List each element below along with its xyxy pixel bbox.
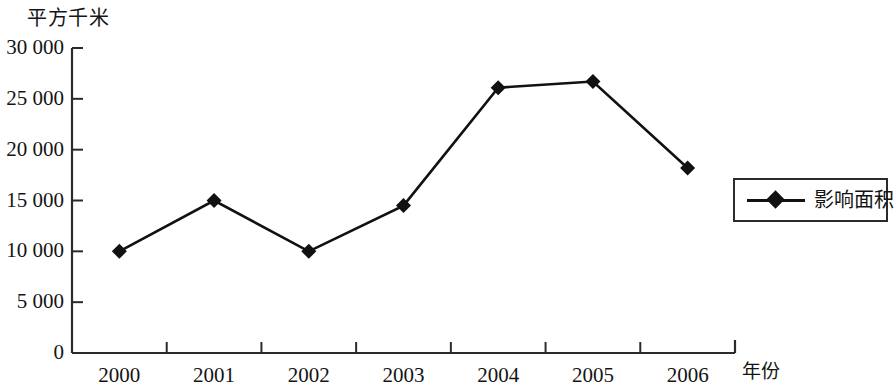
- legend-label-0: 影响面积: [814, 190, 894, 210]
- y-tick-label-4: 20 000: [0, 139, 64, 160]
- y-axis-ticks: [72, 48, 83, 353]
- x-axis-unit-label: 年份: [742, 362, 780, 381]
- data-point-2002: [301, 244, 316, 259]
- y-tick-label-3: 15 000: [0, 190, 64, 211]
- x-axis-ticks: [167, 342, 641, 353]
- x-tick-label-6: 2006: [667, 365, 709, 386]
- x-tick-label-2: 2002: [288, 365, 330, 386]
- x-tick-label-3: 2003: [383, 365, 425, 386]
- data-point-2000: [112, 244, 127, 259]
- diamond-marker-icon: [747, 193, 805, 207]
- y-tick-label-0: 0: [0, 342, 64, 363]
- x-tick-label-5: 2005: [572, 365, 614, 386]
- y-tick-label-2: 10 000: [0, 240, 64, 261]
- legend: 影响面积: [733, 178, 888, 222]
- y-tick-label-6: 30 000: [0, 37, 64, 58]
- x-tick-label-1: 2001: [193, 365, 235, 386]
- series-markers-影响面积: [112, 74, 695, 259]
- data-point-2001: [207, 193, 222, 208]
- x-tick-label-0: 2000: [98, 365, 140, 386]
- series-line-影响面积: [119, 82, 687, 252]
- y-tick-label-5: 25 000: [0, 88, 64, 109]
- y-tick-label-1: 5 000: [0, 291, 64, 312]
- x-tick-label-4: 2004: [477, 365, 519, 386]
